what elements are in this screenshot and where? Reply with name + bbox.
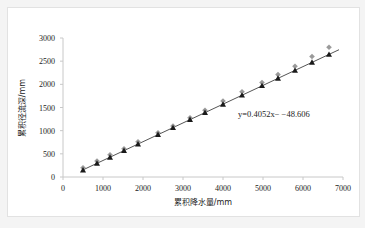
y-tick-label: 3000 [39,34,55,43]
simulated-point [326,51,332,56]
simulated-point [309,59,315,64]
simulated-point [259,83,265,88]
x-tick-label: 5000 [255,184,271,193]
y-tick-label: 2500 [39,57,55,66]
y-tick-label: 2000 [39,80,55,89]
scatter-chart: 0100020003000400050006000700005001000150… [0,0,365,228]
simulated-point [239,92,245,97]
x-axis-label: 累积降水量/mm [174,197,232,207]
regression-equation: y=0.4052x− −48.606 [238,109,310,119]
simulated-point [275,75,281,80]
observed-point [326,44,332,50]
x-tick-label: 3000 [175,184,191,193]
x-tick-label: 4000 [215,184,231,193]
y-tick-label: 500 [43,150,55,159]
y-tick-label: 0 [51,173,55,182]
y-axis-label: 累积径流深/mm [17,79,27,137]
y-tick-label: 1000 [39,127,55,136]
x-tick-label: 0 [61,184,65,193]
x-tick-label: 2000 [135,184,151,193]
simulated-point [292,67,298,72]
simulated-point [220,101,226,106]
y-tick-label: 1500 [39,104,55,113]
x-tick-label: 6000 [295,184,311,193]
x-tick-label: 1000 [95,184,111,193]
observed-point [309,54,315,60]
x-tick-label: 7000 [335,184,351,193]
